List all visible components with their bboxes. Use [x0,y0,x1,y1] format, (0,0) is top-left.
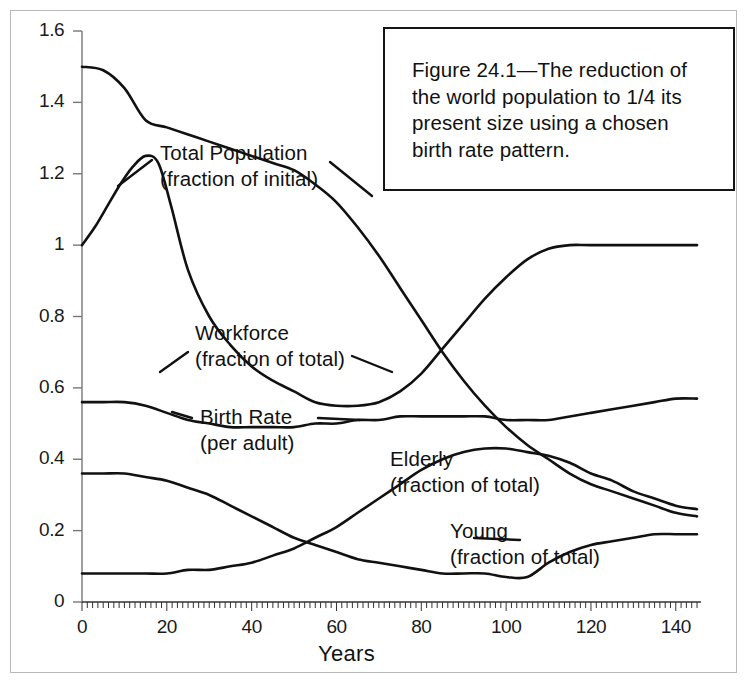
x-axis-tick-label: 40 [222,616,282,638]
annotation-workforce: Workforce(fraction of total) [195,320,345,372]
series-line-2 [82,156,697,407]
y-axis-tick-label: 0 [4,590,64,612]
x-axis-tick-label: 0 [52,616,112,638]
annotation-subtitle: (fraction of total) [195,346,345,372]
annotation-total-population: Total Population(fraction of initial) [160,140,318,192]
annotation-leader-line [352,356,392,372]
annotation-subtitle: (fraction of initial) [160,166,318,192]
annotation-subtitle: (fraction of total) [450,544,600,570]
caption-line-4: birth rate pattern. [412,138,570,161]
annotation-title: Total Population [160,140,318,166]
x-axis-tick-label: 140 [646,616,706,638]
annotation-elderly: Elderly(fraction of total) [390,446,540,498]
annotation-title: Birth Rate [200,404,295,430]
y-axis-tick-label: 1.4 [4,90,64,112]
annotation-title: Young [450,518,600,544]
annotation-young: Young(fraction of total) [450,518,600,570]
x-axis-tick-label: 20 [137,616,197,638]
annotation-title: Workforce [195,320,345,346]
figure-caption-text: Figure 24.1—The reduction of the world p… [412,57,712,163]
y-axis-tick-label: 1 [4,233,64,255]
x-axis-tick-label: 100 [476,616,536,638]
caption-line-3: present size using a chosen [412,111,669,134]
y-axis-tick-label: 0.6 [4,376,64,398]
annotation-birth-rate: Birth Rate(per adult) [200,404,295,456]
annotation-leader-line [160,352,188,372]
x-axis-tick-label: 80 [391,616,451,638]
annotation-leader-line [330,162,372,196]
x-axis-tick-label: 120 [561,616,621,638]
figure-caption-box: Figure 24.1—The reduction of the world p… [383,27,735,191]
y-axis-tick-label: 0.2 [4,519,64,541]
annotation-title: Elderly [390,446,540,472]
annotation-leader-line [318,418,360,420]
y-axis-tick-label: 1.2 [4,162,64,184]
annotation-subtitle: (per adult) [200,430,295,456]
x-axis-label: Years [318,641,375,667]
y-axis-tick-label: 0.8 [4,305,64,327]
y-axis-tick-label: 0.4 [4,447,64,469]
y-axis-tick-label: 1.6 [4,19,64,41]
x-axis-tick-label: 60 [306,616,366,638]
annotation-subtitle: (fraction of total) [390,472,540,498]
caption-line-1: Figure 24.1—The reduction of [412,58,687,81]
caption-line-2: the world population to 1/4 its [412,85,682,108]
